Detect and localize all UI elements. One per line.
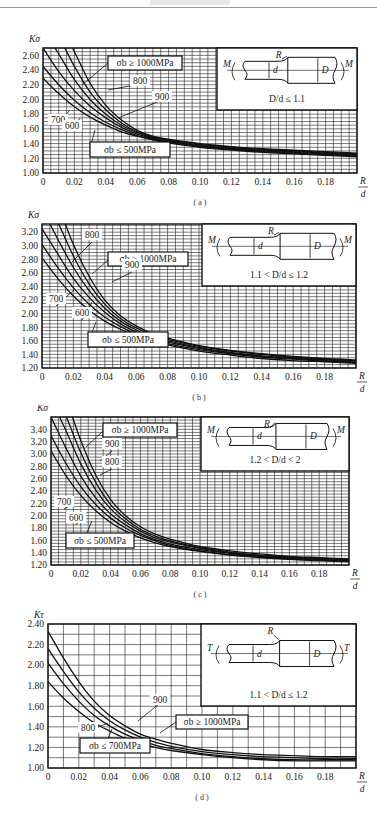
y-tick-label: 2.20 — [27, 640, 44, 650]
svg-text:R: R — [358, 771, 365, 781]
label-strength-800: 800 — [105, 457, 120, 467]
y-tick-label: 1.60 — [27, 702, 44, 712]
label-strength-900: 900 — [155, 92, 170, 102]
label-top-strength: σb ≥ 1000MPa — [103, 423, 177, 437]
label-strength-700: 700 — [57, 497, 72, 507]
x-tick-label: 0.04 — [97, 177, 114, 187]
label-strength-700: 700 — [49, 294, 64, 304]
label-bottom-strength: σb ≤ 500MPa — [66, 533, 134, 548]
svg-text:T: T — [207, 643, 213, 653]
x-tick-label: 0.08 — [159, 372, 176, 382]
svg-text:σb ≥ 1000MPa: σb ≥ 1000MPa — [112, 425, 170, 435]
x-tick-label: 0 — [49, 569, 54, 579]
x-tick-label: 0.02 — [65, 372, 82, 382]
x-tick-label: 0.18 — [311, 569, 328, 579]
chart-b-plot: 1.201.401.601.802.002.202.402.602.803.00… — [21, 210, 367, 402]
x-tick-label: 0.08 — [160, 177, 177, 187]
y-tick-label: 2.80 — [21, 255, 38, 265]
x-tick-label: 0.16 — [281, 569, 298, 579]
x-axis-label: Rd — [358, 176, 368, 199]
svg-text:M: M — [344, 59, 354, 69]
x-tick-label: 0.12 — [223, 177, 240, 187]
svg-text:D: D — [309, 431, 317, 441]
chart-c-plot: 1.201.401.601.802.002.202.402.602.803.00… — [30, 405, 360, 599]
y-tick-label: 1.60 — [21, 336, 38, 346]
x-tick-label: 0.08 — [163, 772, 180, 782]
y-tick-label: 2.20 — [30, 499, 47, 509]
y-tick-label: 2.40 — [21, 282, 38, 292]
label-strength-900: 900 — [125, 260, 140, 270]
label-top-strength: σb ≥ 1000MPa — [108, 252, 188, 266]
label-strength-900: 900 — [153, 695, 168, 705]
label-strength-800: 800 — [81, 723, 96, 733]
y-tick-label: 2.00 — [22, 95, 39, 105]
label-strength-800: 800 — [85, 230, 100, 240]
chart-c: 1.201.401.601.802.002.202.402.602.803.00… — [0, 405, 377, 605]
svg-text:M: M — [206, 425, 216, 435]
x-tick-label: 0.10 — [192, 177, 209, 187]
svg-text:M: M — [222, 59, 232, 69]
y-tick-label: 2.00 — [27, 660, 44, 670]
svg-text:R: R — [358, 371, 365, 381]
y-tick-label: 1.80 — [21, 323, 38, 333]
x-tick-label: 0 — [40, 372, 45, 382]
y-tick-label: 2.40 — [30, 486, 47, 496]
y-tick-label: 2.80 — [30, 462, 47, 472]
y-axis-label: Kσ — [28, 34, 40, 44]
label-top-strength: σb ≥ 1000MPa — [176, 715, 248, 729]
x-tick-label: 0.12 — [221, 569, 238, 579]
svg-text:d: d — [361, 189, 366, 199]
x-tick-label: 0.08 — [162, 569, 179, 579]
svg-text:d: d — [257, 431, 262, 441]
x-tick-label: 0.06 — [132, 569, 149, 579]
x-tick-label: 0.18 — [317, 177, 334, 187]
svg-text:d: d — [273, 65, 278, 75]
svg-text:D: D — [313, 649, 321, 659]
inset-shaft-diagram: dDRMMD/d ≤ 1.1 — [217, 48, 357, 110]
svg-text:T: T — [344, 643, 350, 653]
svg-text:σb ≤ 500MPa: σb ≤ 500MPa — [102, 335, 155, 345]
svg-text:σb ≥ 1000MPa: σb ≥ 1000MPa — [117, 58, 175, 68]
y-tick-label: 2.40 — [22, 65, 39, 75]
x-tick-label: 0.14 — [253, 372, 270, 382]
svg-text:R: R — [275, 50, 282, 60]
y-tick-label: 1.60 — [22, 124, 39, 134]
y-tick-label: 3.00 — [30, 449, 47, 459]
inset-condition: 1.2 < D/d < 2 — [249, 455, 300, 465]
y-tick-label: 1.40 — [27, 722, 44, 732]
x-tick-label: 0.18 — [317, 772, 334, 782]
svg-text:M: M — [207, 235, 217, 245]
svg-text:R: R — [359, 176, 366, 186]
y-tick-label: 2.20 — [21, 295, 38, 305]
svg-text:σb ≤ 500MPa: σb ≤ 500MPa — [74, 536, 127, 546]
x-tick-label: 0.10 — [191, 372, 208, 382]
y-tick-label: 1.80 — [30, 523, 47, 533]
chart-caption: ( c ) — [194, 590, 207, 599]
svg-text:M: M — [336, 425, 346, 435]
chart-d-plot: 1.001.201.401.601.802.002.202.40Kτ00.020… — [27, 610, 367, 802]
y-tick-label: 2.60 — [21, 268, 38, 278]
label-strength-600: 600 — [69, 513, 84, 523]
label-strength-600: 600 — [75, 308, 90, 318]
chart-b: 1.201.401.601.802.002.202.402.602.803.00… — [0, 210, 377, 410]
y-tick-label: 1.80 — [27, 681, 44, 691]
inset-condition: 1.1 < D/d ≤ 1.2 — [250, 270, 308, 280]
x-tick-label: 0.04 — [96, 372, 113, 382]
y-tick-label: 1.00 — [27, 763, 44, 773]
x-tick-label: 0.02 — [66, 177, 83, 187]
y-tick-label: 1.40 — [30, 548, 47, 558]
y-tick-label: 3.00 — [21, 241, 38, 251]
inset-shaft-diagram: dDRTT1.1 < D/d ≤ 1.2 — [201, 624, 356, 706]
x-tick-label: 0.14 — [255, 772, 272, 782]
x-tick-label: 0.18 — [316, 372, 333, 382]
x-tick-label: 0.02 — [70, 772, 87, 782]
x-tick-label: 0 — [46, 772, 51, 782]
inset-condition: D/d ≤ 1.1 — [269, 94, 305, 104]
svg-text:d: d — [360, 784, 365, 794]
x-axis-label: Rd — [357, 771, 367, 794]
y-tick-label: 1.20 — [22, 154, 39, 164]
x-tick-label: 0.16 — [286, 772, 303, 782]
x-axis-label: Rd — [350, 568, 360, 591]
y-tick-label: 2.20 — [22, 80, 39, 90]
inset-condition: 1.1 < D/d ≤ 1.2 — [249, 690, 307, 700]
